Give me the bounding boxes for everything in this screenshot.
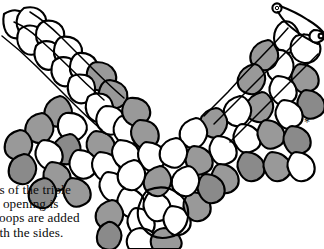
asterisk-marker: *	[304, 115, 310, 129]
safety-pin-coil-inner	[275, 6, 278, 9]
caption-text: ops of the triple all opening is a loops…	[0, 183, 126, 240]
caption-line-3: a loops are added	[0, 211, 126, 225]
safety-pin-tip	[319, 34, 324, 39]
caption-line-1: ops of the triple	[0, 183, 126, 197]
illustration-page: .st { stroke:#000000; stroke-width:2.1; …	[0, 0, 324, 249]
caption-line-4: with the sides.	[0, 226, 126, 240]
caption-line-2: all opening is	[0, 197, 126, 211]
braid-segment-shaded	[9, 154, 37, 184]
braid-segment	[160, 138, 188, 168]
